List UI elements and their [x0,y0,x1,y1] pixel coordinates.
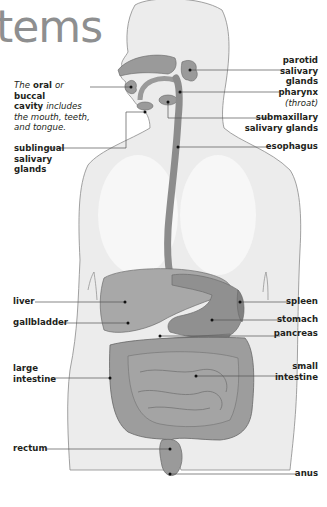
label-rectum: rectum [13,443,47,454]
label-stomach: stomach [277,314,318,325]
label-oral-cavity: The oral or buccal cavity includes the m… [14,80,94,133]
label-parotid-salivary-glands: parotid salivary glands [280,55,318,87]
label-spleen: spleen [286,296,318,307]
label-small-intestine: small intestine [275,361,318,382]
label-gallbladder: gallbladder [13,317,68,328]
label-liver: liver [13,296,35,307]
label-sublingual-salivary-glands: sublingual salivary glands [14,143,64,175]
label-large-intestine: large intestine [13,363,56,384]
label-pancreas: pancreas [274,328,318,339]
label-pharynx: pharynx (throat) [278,87,318,108]
label-submaxillary-salivary-glands: submaxillary salivary glands [245,112,318,133]
digestive-system-illustration [0,0,327,507]
label-anus: anus [295,468,318,479]
label-esophagus: esophagus [266,141,318,152]
